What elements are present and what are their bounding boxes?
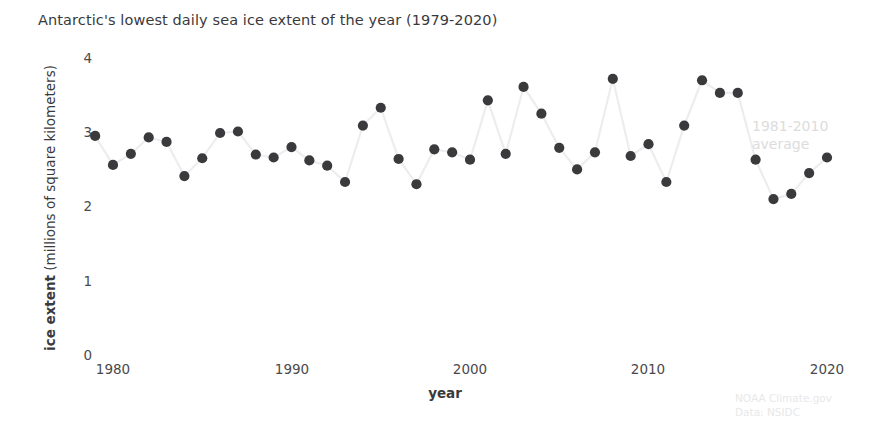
data-point: [376, 103, 386, 113]
data-point: [679, 120, 689, 130]
data-point: [197, 153, 207, 163]
data-point: [447, 147, 457, 157]
data-point: [536, 109, 546, 119]
data-point: [768, 194, 778, 204]
data-point: [572, 164, 582, 174]
data-point: [126, 149, 136, 159]
data-point: [518, 82, 528, 92]
data-point: [411, 179, 421, 189]
series-markers: [90, 74, 832, 204]
data-point: [554, 143, 564, 153]
data-point: [697, 75, 707, 85]
data-point: [501, 149, 511, 159]
data-point: [179, 171, 189, 181]
data-point: [304, 155, 314, 165]
data-point: [233, 126, 243, 136]
data-point: [465, 155, 475, 165]
average-annotation: 1981-2010 average: [752, 118, 828, 153]
data-point: [394, 154, 404, 164]
data-point: [715, 88, 725, 98]
data-point: [590, 147, 600, 157]
data-point: [643, 139, 653, 149]
data-point: [733, 88, 743, 98]
plot-area: [0, 0, 890, 429]
average-annotation-line2: average: [752, 136, 828, 154]
data-point: [358, 120, 368, 130]
data-point: [161, 137, 171, 147]
data-point: [804, 168, 814, 178]
data-point: [661, 177, 671, 187]
data-point: [286, 142, 296, 152]
data-point: [429, 144, 439, 154]
data-point: [90, 131, 100, 141]
credit-block: NOAA Climate.gov Data: NSIDC: [735, 391, 832, 419]
data-point: [626, 151, 636, 161]
data-point: [483, 95, 493, 105]
data-point: [751, 155, 761, 165]
data-point: [251, 149, 261, 159]
chart-figure: Antarctic's lowest daily sea ice extent …: [0, 0, 890, 429]
data-point: [215, 128, 225, 138]
data-point: [322, 161, 332, 171]
credit-line-source: Data: NSIDC: [735, 405, 832, 419]
average-annotation-line1: 1981-2010: [752, 118, 828, 136]
credit-line-noaa: NOAA Climate.gov: [735, 391, 832, 405]
data-point: [822, 152, 832, 162]
data-point: [786, 189, 796, 199]
data-point: [144, 132, 154, 142]
data-point: [340, 177, 350, 187]
data-point: [608, 74, 618, 84]
data-point: [269, 152, 279, 162]
data-point: [108, 160, 118, 170]
